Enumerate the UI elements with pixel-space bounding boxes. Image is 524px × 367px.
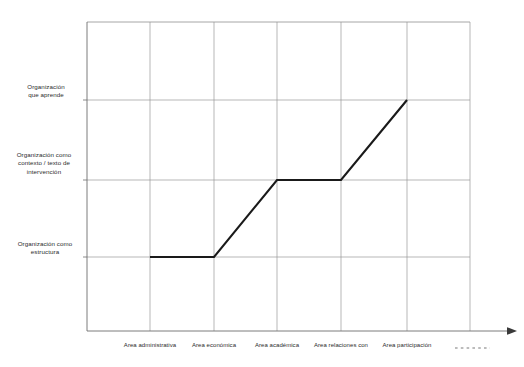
x-axis-label-area-participacion: Area participación	[366, 341, 448, 349]
chart-page: Organización que aprende Organización co…	[0, 0, 524, 367]
y-axis-label-contexto: Organización como contexto / texto de in…	[6, 151, 82, 176]
y-axis-label-aprende: Organización que aprende	[10, 83, 82, 100]
y-axis-label-estructura: Organización como estructura	[8, 240, 82, 257]
line-chart	[0, 0, 524, 367]
plot-background	[0, 0, 524, 367]
